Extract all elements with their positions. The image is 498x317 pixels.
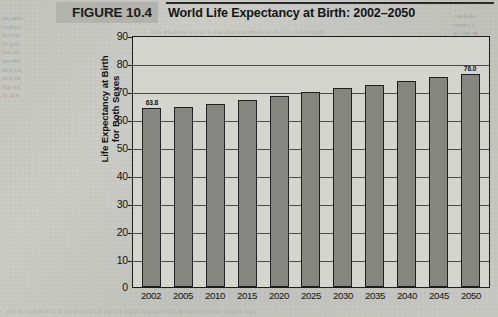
y-axis-tick-label-zero: 0: [104, 281, 128, 293]
scanned-page-background: anomic compe world ly gre for ex anomi a…: [0, 0, 498, 317]
x-axis-tick-label: 2010: [199, 290, 231, 301]
bar-2002: [142, 108, 161, 287]
x-axis-tick-label: 2020: [263, 290, 295, 301]
figure-10-4: FIGURE 10.4 World Life Expectancy at Bir…: [56, 0, 494, 313]
figure-number-tag: FIGURE 10.4: [56, 2, 158, 23]
bar-slot: [422, 35, 454, 287]
y-axis-tick-labels: 908070605040302010: [104, 26, 128, 311]
figure-title: World Life Expectancy at Birth: 2002–205…: [168, 6, 415, 20]
x-axis-tick-label: 2050: [455, 290, 487, 301]
y-axis-tick-label: 40: [117, 170, 128, 182]
y-axis-tick-label: 50: [117, 142, 128, 154]
bar-value-label-2050: 76.0: [464, 65, 476, 72]
bar-chart: Life Expectancy at Birth for Both Sexes …: [56, 26, 494, 311]
y-axis-tick-label: 80: [117, 58, 128, 70]
y-axis-tick-label: 20: [117, 226, 128, 238]
bar-slot: [231, 35, 263, 287]
y-axis-tick-label: 30: [117, 198, 128, 210]
bar-slot: 63.8: [136, 35, 168, 287]
x-axis-tick-label: 2005: [167, 290, 199, 301]
bar-slot: [391, 35, 423, 287]
x-axis-tick-labels: 2002200520102015202020252030203520402045…: [132, 290, 490, 301]
bar-slot: [327, 35, 359, 287]
bar-2005: [174, 107, 193, 287]
bar-2015: [238, 100, 257, 287]
bar-value-label-2002: 63.8: [146, 99, 158, 106]
bar-slot: [200, 35, 232, 287]
x-axis-tick-label: 2040: [391, 290, 423, 301]
bar-slot: [168, 35, 200, 287]
y-axis-tick-label: 10: [117, 254, 128, 266]
bar-2045: [429, 77, 448, 287]
y-axis-tick-label: 60: [117, 114, 128, 126]
bar-2050: [461, 74, 480, 287]
x-axis-tick-label: 2030: [327, 290, 359, 301]
y-axis-tick-label: 90: [117, 30, 128, 42]
bar-2035: [365, 85, 384, 287]
x-axis-tick-label: 2015: [231, 290, 263, 301]
bar-2020: [270, 96, 289, 287]
title-rule-divider: [166, 2, 494, 4]
bar-2030: [333, 88, 352, 287]
bar-2025: [301, 92, 320, 287]
bar-series: 63.876.0: [133, 35, 489, 287]
bar-2010: [206, 104, 225, 287]
bar-2040: [397, 81, 416, 287]
plot-area: 63.876.0: [132, 36, 490, 288]
y-axis-tick-label: 70: [117, 86, 128, 98]
figure-header: FIGURE 10.4 World Life Expectancy at Bir…: [56, 2, 494, 24]
bar-slot: [263, 35, 295, 287]
bar-slot: [359, 35, 391, 287]
bar-slot: 76.0: [454, 35, 486, 287]
x-axis-tick-label: 2025: [295, 290, 327, 301]
bar-slot: [295, 35, 327, 287]
bleed-through-text-left: anomic compe world ly gre for ex anomi a…: [2, 14, 54, 100]
x-axis-tick-label: 2045: [423, 290, 455, 301]
x-axis-tick-label: 2002: [135, 290, 167, 301]
x-axis-tick-label: 2035: [359, 290, 391, 301]
